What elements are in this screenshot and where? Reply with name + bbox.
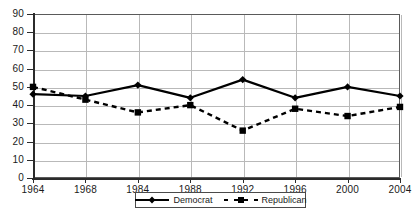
chart-legend: Democrat Republican [135,192,306,208]
data-point-marker [135,109,141,115]
data-point-marker [82,96,88,102]
democrat-line-swatch-icon [134,195,170,205]
x-tick-label: 1964 [21,184,44,195]
x-tick-mark [243,178,244,183]
x-tick-mark [400,178,401,183]
x-tick-label: 2000 [336,184,359,195]
y-tick-label: 90 [0,9,24,19]
data-point-marker [292,106,298,112]
data-point-marker [292,94,299,101]
data-series-layer [33,14,400,178]
x-tick-mark [295,178,296,183]
data-point-marker [239,76,246,83]
data-point-marker [397,104,403,110]
x-tick-mark [33,178,34,183]
x-tick-mark [190,178,191,183]
series-line [33,87,400,131]
y-tick-label: 30 [0,118,24,128]
data-point-marker [29,91,36,98]
line-chart: 0102030405060708090 19641968198419881992… [0,0,417,217]
data-point-marker [134,81,141,88]
data-point-marker [396,92,403,99]
x-tick-mark [348,178,349,183]
data-point-marker [187,94,194,101]
republican-line-swatch-icon [223,195,259,205]
y-tick-label: 80 [0,27,24,37]
x-tick-label: 1968 [74,184,97,195]
data-point-marker [240,127,246,133]
y-tick-label: 20 [0,137,24,147]
data-point-marker [187,102,193,108]
legend-label-republican: Republican [262,195,307,205]
legend-item-republican[interactable]: Republican [223,195,307,205]
data-point-marker [344,113,350,119]
series-republican [30,84,403,134]
y-tick-label: 60 [0,64,24,74]
y-tick-label: 10 [0,155,24,165]
y-tick-label: 50 [0,82,24,92]
y-tick-label: 0 [0,173,24,183]
x-axis [32,178,401,180]
legend-label-democrat: Democrat [173,195,212,205]
legend-item-democrat[interactable]: Democrat [134,195,212,205]
y-tick-label: 40 [0,100,24,110]
data-point-marker [30,84,36,90]
x-tick-label: 2004 [388,184,411,195]
x-tick-mark [85,178,86,183]
x-tick-mark [138,178,139,183]
data-point-marker [344,83,351,90]
y-tick-label: 70 [0,45,24,55]
